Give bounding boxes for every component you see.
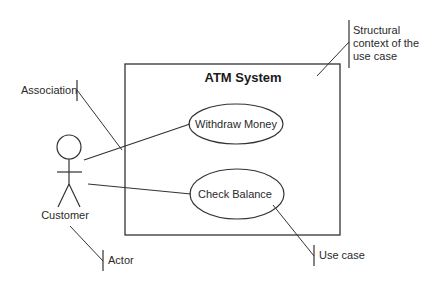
callout-leader	[317, 42, 349, 76]
use-case-label: Withdraw Money	[195, 118, 277, 130]
callout-leader	[70, 226, 103, 261]
use-case-withdraw-money: Withdraw Money	[189, 104, 283, 144]
callout-association: Association	[21, 80, 122, 150]
callout-leader	[273, 205, 314, 256]
system-boundary: ATM System	[125, 64, 340, 235]
use-case-diagram: ATM System Withdraw Money Check Balance …	[0, 0, 432, 287]
callout-leader	[77, 90, 122, 150]
callout-structural-context: Structural context of the use case	[317, 20, 422, 76]
system-box	[125, 64, 340, 235]
callout-label: Association	[21, 84, 77, 96]
actor-label: Customer	[41, 209, 89, 221]
use-case-label: Check Balance	[198, 188, 272, 200]
callout-label: Structural context of the use case	[353, 24, 422, 62]
association-check-balance	[88, 184, 191, 194]
use-case-check-balance: Check Balance	[190, 169, 284, 219]
association-withdraw-money	[84, 124, 190, 160]
stick-figure-icon	[57, 135, 82, 207]
callout-label: Use case	[319, 249, 365, 261]
system-title: ATM System	[204, 70, 281, 85]
actor-customer: Customer	[41, 135, 89, 221]
callout-label: Actor	[108, 254, 134, 266]
